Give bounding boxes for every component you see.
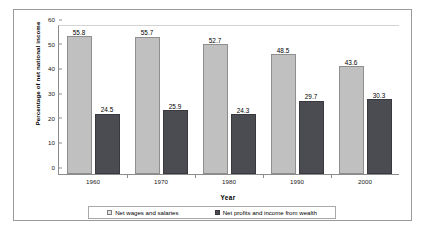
bar-value-label: 29.7	[305, 93, 317, 100]
legend-label: Net wages and salaries	[115, 209, 178, 216]
legend-label: Net profits and income from wealth	[223, 209, 317, 216]
bar-profits-1970[interactable]: 25.9	[163, 110, 188, 174]
bar-wages-1980[interactable]: 52.7	[203, 44, 228, 174]
bar-value-label: 48.5	[277, 47, 289, 54]
x-tick-label: 1960	[86, 178, 100, 185]
x-tick-label: 1980	[222, 178, 236, 185]
bar-group: 52.724.31980	[195, 26, 263, 174]
y-tick-label: 30	[48, 90, 59, 97]
bar-wages-1960[interactable]: 55.8	[67, 36, 92, 174]
bar-profits-1960[interactable]: 24.5	[95, 114, 120, 174]
chart-legend: Net wages and salariesNet profits and in…	[88, 206, 336, 219]
x-tick-label: 1970	[154, 178, 168, 185]
x-tick-label: 1990	[290, 178, 304, 185]
x-axis-title: Year	[58, 194, 398, 201]
bar-group: 55.824.51960	[59, 26, 127, 174]
chart-frame: Percentage of net national income 605040…	[13, 9, 412, 221]
x-tick-label: 2000	[358, 178, 372, 185]
bar-value-label: 25.9	[169, 103, 181, 110]
y-tick-label: 50	[48, 40, 59, 47]
y-tick-label: 60	[48, 16, 59, 23]
legend-item-profits[interactable]: Net profits and income from wealth	[215, 209, 317, 216]
bar-group: 43.630.32000	[331, 26, 399, 174]
plot-area: 6050403020100 55.824.5196055.725.9197052…	[58, 25, 399, 175]
bar-wages-1970[interactable]: 55.7	[135, 37, 160, 174]
bar-profits-2000[interactable]: 30.3	[367, 99, 392, 174]
legend-swatch-icon	[215, 210, 220, 215]
bar-wages-1990[interactable]: 48.5	[271, 54, 296, 174]
bar-group: 48.529.71990	[263, 26, 331, 174]
y-tick-label: 0	[52, 164, 59, 171]
y-tick-label: 10	[48, 139, 59, 146]
bar-value-label: 24.5	[101, 106, 113, 113]
bar-groups: 55.824.5196055.725.9197052.724.3198048.5…	[59, 26, 399, 174]
bar-profits-1990[interactable]: 29.7	[299, 101, 324, 174]
bar-value-label: 30.3	[373, 92, 385, 99]
bar-value-label: 24.3	[237, 107, 249, 114]
bar-value-label: 52.7	[209, 37, 221, 44]
y-axis-title: Percentage of net national income	[34, 4, 41, 144]
bar-profits-1980[interactable]: 24.3	[231, 114, 256, 174]
bar-value-label: 55.7	[141, 29, 153, 36]
legend-swatch-icon	[107, 210, 112, 215]
bar-wages-2000[interactable]: 43.6	[339, 66, 364, 174]
y-tick-label: 20	[48, 114, 59, 121]
y-tick-label: 40	[48, 65, 59, 72]
legend-item-wages[interactable]: Net wages and salaries	[107, 209, 178, 216]
bar-value-label: 55.8	[73, 29, 85, 36]
bar-value-label: 43.6	[345, 59, 357, 66]
bar-group: 55.725.91970	[127, 26, 195, 174]
